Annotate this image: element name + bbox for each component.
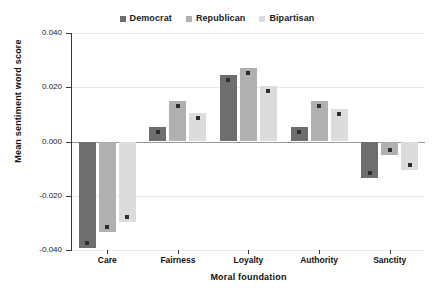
y-tick-mark (66, 33, 72, 34)
y-tick-label: 0.020 (22, 83, 62, 91)
legend-entry-democrat[interactable]: Democrat (120, 14, 172, 23)
bar-authority-democrat[interactable] (291, 127, 308, 141)
legend-entry-bipartisan[interactable]: Bipartisan (259, 14, 314, 23)
y-tick-label: 0.000 (22, 138, 62, 146)
y-tick-label: -0.040 (22, 246, 62, 254)
bar-value-marker (266, 89, 270, 93)
legend-swatch-republican (186, 16, 192, 22)
bar-group: Authority (284, 33, 355, 250)
bar-group: Sanctity (354, 33, 425, 250)
bar-value-marker (156, 130, 160, 134)
y-axis-title: Mean sentiment word score (13, 26, 23, 176)
bar-group: Loyalty (213, 33, 284, 250)
bar-care-democrat[interactable] (79, 142, 96, 249)
bar-fairness-democrat[interactable] (149, 127, 166, 142)
chart-legend: Democrat Republican Bipartisan (0, 14, 434, 23)
x-tick-mark (107, 250, 108, 254)
bar-value-marker (408, 163, 412, 167)
bar-value-marker (176, 104, 180, 108)
bar-value-marker (388, 148, 392, 152)
bar-value-marker (196, 116, 200, 120)
bar-value-marker (105, 225, 109, 229)
y-tick-label: -0.020 (22, 192, 62, 200)
x-tick-mark (178, 250, 179, 254)
bar-group: Fairness (143, 33, 214, 250)
bar-value-marker (226, 78, 230, 82)
bar-sanctity-bipartisan[interactable] (401, 142, 418, 171)
bar-value-marker (246, 71, 250, 75)
legend-label-republican: Republican (196, 14, 246, 23)
bar-fairness-republican[interactable] (169, 101, 186, 141)
bar-care-republican[interactable] (99, 142, 116, 233)
bar-value-marker (125, 215, 129, 219)
y-tick-mark (66, 250, 72, 251)
y-tick-mark (66, 142, 72, 143)
x-tick-label-sanctity: Sanctity (340, 255, 434, 265)
legend-label-democrat: Democrat (130, 14, 172, 23)
bar-value-marker (297, 130, 301, 134)
bar-chart: Democrat Republican Bipartisan Mean sent… (0, 0, 434, 296)
bar-value-marker (317, 104, 321, 108)
legend-swatch-bipartisan (259, 16, 265, 22)
plot-area: CareFairnessLoyaltyAuthoritySanctity (72, 33, 425, 250)
bar-sanctity-republican[interactable] (381, 142, 398, 156)
legend-swatch-democrat (120, 16, 126, 22)
bar-value-marker (337, 112, 341, 116)
bar-value-marker (368, 171, 372, 175)
x-tick-mark (390, 250, 391, 254)
bar-fairness-bipartisan[interactable] (189, 113, 206, 141)
legend-label-bipartisan: Bipartisan (269, 14, 314, 23)
bar-value-marker (85, 241, 89, 245)
x-tick-mark (319, 250, 320, 254)
bar-sanctity-democrat[interactable] (361, 142, 378, 178)
bar-authority-bipartisan[interactable] (331, 109, 348, 142)
y-tick-label: 0.040 (22, 29, 62, 37)
bar-authority-republican[interactable] (311, 101, 328, 141)
bar-group: Care (72, 33, 143, 250)
bar-care-bipartisan[interactable] (119, 142, 136, 223)
x-axis-title: Moral foundation (72, 272, 425, 282)
y-tick-mark (66, 196, 72, 197)
y-tick-mark (66, 87, 72, 88)
legend-entry-republican[interactable]: Republican (186, 14, 246, 23)
x-tick-mark (248, 250, 249, 254)
bar-loyalty-bipartisan[interactable] (260, 86, 277, 142)
bar-loyalty-republican[interactable] (240, 68, 257, 141)
bar-loyalty-democrat[interactable] (220, 75, 237, 142)
